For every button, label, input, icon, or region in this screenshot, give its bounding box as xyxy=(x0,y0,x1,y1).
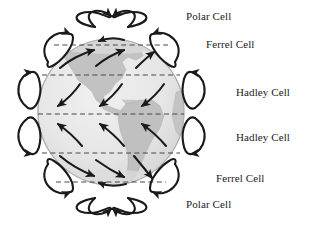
label-hadley-cell-north: Hadley Cell xyxy=(236,86,290,98)
loop-hadley-south-right xyxy=(191,118,205,154)
label-ferrel-cell-south: Ferrel Cell xyxy=(216,172,264,184)
globe-circulation-svg xyxy=(0,0,319,225)
loop-hadley-south-right-return xyxy=(183,117,195,154)
loop-hadley-north-left xyxy=(18,72,32,108)
loop-hadley-north-right-return xyxy=(183,72,195,109)
label-hadley-cell-south: Hadley Cell xyxy=(236,131,290,143)
label-polar-cell-north: Polar Cell xyxy=(186,10,231,22)
label-polar-cell-south: Polar Cell xyxy=(186,198,231,210)
circulation-diagram-figure: Polar Cell Ferrel Cell Hadley Cell Hadle… xyxy=(0,0,319,225)
label-ferrel-cell-north: Ferrel Cell xyxy=(206,38,254,50)
loop-hadley-south-left xyxy=(18,118,32,154)
loop-hadley-north-right xyxy=(191,72,205,108)
